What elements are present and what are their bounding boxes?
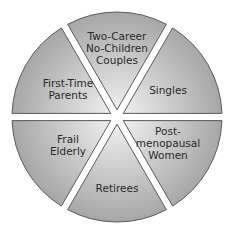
segmented-circle-diagram: Two-CareerNo-ChildrenCouplesSinglesPost-…	[0, 0, 233, 231]
segment-label-singles: Singles	[149, 84, 187, 96]
segment-label-first-time-parents: First-TimeParents	[43, 77, 94, 101]
segment-label-retirees: Retirees	[96, 182, 139, 194]
